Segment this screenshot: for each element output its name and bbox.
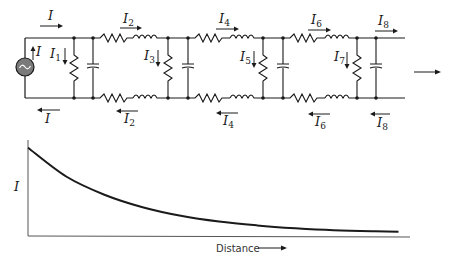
svg-text:I: I bbox=[47, 8, 54, 23]
series-inductor-top-3 bbox=[325, 35, 357, 38]
svg-text:I4: I4 bbox=[218, 11, 230, 28]
junction-nodes bbox=[72, 36, 378, 100]
shunt-resistor-2 bbox=[164, 38, 172, 98]
bottom-current-1: I bbox=[37, 108, 60, 127]
down-arrow-icon bbox=[63, 48, 68, 65]
x-axis-label: Distance bbox=[216, 243, 260, 254]
svg-text:I2: I2 bbox=[122, 11, 134, 28]
svg-text:I6: I6 bbox=[314, 114, 326, 131]
transmission-line-figure: I bbox=[0, 0, 455, 265]
svg-text:I7: I7 bbox=[333, 49, 345, 66]
y-axis-label: I bbox=[13, 179, 20, 194]
down-arrow-icon bbox=[345, 52, 350, 69]
down-arrow-icon bbox=[156, 50, 161, 67]
shunt-capacitor-4 bbox=[370, 38, 382, 98]
series-resistor-top-2 bbox=[192, 34, 230, 42]
circuit-diagram: I bbox=[16, 8, 441, 132]
shunt-resistor-3 bbox=[259, 38, 267, 98]
top-current-6: I6 bbox=[308, 12, 331, 33]
svg-text:I5: I5 bbox=[239, 49, 251, 66]
top-current-2: I2 bbox=[120, 11, 142, 31]
top-current-1: I bbox=[40, 8, 63, 29]
shunt-current-3: I3 bbox=[143, 48, 161, 67]
svg-text:I4: I4 bbox=[222, 113, 234, 130]
bottom-current-6: I6 bbox=[308, 112, 330, 132]
svg-text:I8: I8 bbox=[377, 13, 389, 30]
series-resistor-bottom-3 bbox=[287, 94, 325, 102]
svg-text:I: I bbox=[44, 111, 51, 126]
series-inductor-top-1 bbox=[133, 35, 168, 38]
svg-text:I6: I6 bbox=[310, 12, 322, 29]
svg-text:I3: I3 bbox=[143, 48, 155, 65]
svg-text:I8: I8 bbox=[376, 115, 388, 132]
shunt-current-7: I7 bbox=[333, 49, 350, 69]
shunt-current-1: I1 bbox=[49, 46, 68, 65]
series-inductor-top-2 bbox=[230, 35, 263, 38]
series-resistor-bottom-2 bbox=[192, 94, 230, 102]
series-inductor-bottom-1 bbox=[133, 95, 168, 98]
bottom-current-4: I4 bbox=[216, 111, 238, 131]
current-decay-curve bbox=[28, 148, 399, 232]
series-resistor-bottom-1 bbox=[97, 94, 133, 102]
right-arrow-icon bbox=[40, 24, 63, 29]
shunt-resistor-4 bbox=[353, 38, 361, 98]
shunt-current-5: I5 bbox=[239, 49, 257, 68]
shunt-capacitor-1 bbox=[87, 38, 99, 98]
shunt-resistor-1 bbox=[70, 38, 78, 98]
x-axis bbox=[28, 236, 410, 237]
bottom-current-2: I2 bbox=[116, 109, 138, 129]
series-inductor-bottom-2 bbox=[230, 95, 263, 98]
continuation-arrow-icon bbox=[414, 70, 441, 75]
series-resistor-top-3 bbox=[287, 34, 325, 42]
bottom-current-8: I8 bbox=[370, 112, 390, 133]
ac-source-icon bbox=[16, 58, 34, 76]
top-current-8: I8 bbox=[375, 13, 398, 34]
source-current-arrow-icon bbox=[31, 46, 36, 60]
svg-text:I1: I1 bbox=[49, 46, 61, 63]
shunt-capacitor-3 bbox=[277, 38, 289, 98]
down-arrow-icon bbox=[252, 51, 257, 68]
decay-graph: I Distance bbox=[13, 140, 410, 254]
x-axis-arrow-icon bbox=[258, 246, 287, 251]
series-inductor-bottom-3 bbox=[325, 95, 357, 98]
series-resistor-top-1 bbox=[97, 34, 133, 42]
source-current-label: I bbox=[35, 44, 42, 59]
shunt-capacitor-2 bbox=[182, 38, 194, 98]
svg-text:I2: I2 bbox=[123, 111, 135, 128]
top-current-4: I4 bbox=[216, 11, 239, 32]
